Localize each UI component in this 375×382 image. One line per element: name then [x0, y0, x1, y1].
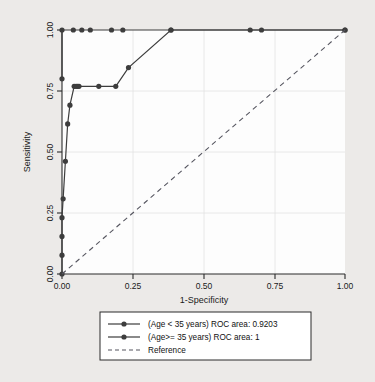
x-tick-labels: 0.00 0.25 0.50 0.75 1.00: [54, 281, 354, 291]
y-tick-label: 1.00: [45, 21, 55, 38]
data-point-marker: [79, 27, 84, 32]
y-tick-label: 0.50: [45, 143, 55, 160]
legend-label: Reference: [148, 346, 186, 355]
data-point-marker: [61, 196, 66, 201]
data-point-marker: [65, 121, 70, 126]
data-point-marker: [59, 253, 64, 258]
data-point-marker: [63, 159, 68, 164]
data-point-marker: [71, 27, 76, 32]
y-tick-label: 0.25: [45, 204, 55, 221]
y-tick-labels: 1.00 0.75 0.50 0.25 0.00: [45, 21, 55, 282]
data-point-marker: [248, 27, 253, 32]
legend-label: (Age>= 35 years) ROC area: 1: [148, 333, 260, 342]
legend-marker-icon: [121, 334, 126, 339]
data-point-marker: [168, 27, 173, 32]
data-point-marker: [126, 65, 131, 70]
data-point-marker: [76, 84, 81, 89]
data-point-marker: [67, 103, 72, 108]
y-tick-label: 0.75: [45, 82, 55, 99]
data-point-marker: [59, 76, 64, 81]
x-tick-label: 0.50: [196, 281, 213, 291]
roc-curve-figure: 1.00 0.75 0.50 0.25 0.00 0.00 0.25 0.50 …: [0, 0, 375, 382]
x-tick-label: 1.00: [337, 281, 354, 291]
y-tick-label: 0.00: [45, 265, 55, 282]
x-axis-title: 1-Specificity: [180, 295, 229, 305]
legend-label: (Age < 35 years) ROC area: 0.9203: [148, 320, 278, 329]
data-point-marker: [259, 27, 264, 32]
data-point-marker: [59, 215, 64, 220]
legend-marker-icon: [121, 321, 126, 326]
data-point-marker: [59, 234, 64, 239]
data-point-marker: [96, 84, 101, 89]
x-tick-label: 0.25: [125, 281, 142, 291]
data-point-marker: [120, 27, 125, 32]
x-axis-ticks: [62, 274, 345, 279]
x-tick-label: 0.00: [54, 281, 71, 291]
data-point-marker: [59, 27, 64, 32]
y-axis-title: Sensitivity: [22, 131, 32, 172]
roc-plot-svg: 1.00 0.75 0.50 0.25 0.00 0.00 0.25 0.50 …: [0, 0, 375, 382]
data-point-marker: [88, 27, 93, 32]
data-point-marker: [113, 84, 118, 89]
data-point-marker: [109, 27, 114, 32]
x-tick-label: 0.75: [267, 281, 284, 291]
